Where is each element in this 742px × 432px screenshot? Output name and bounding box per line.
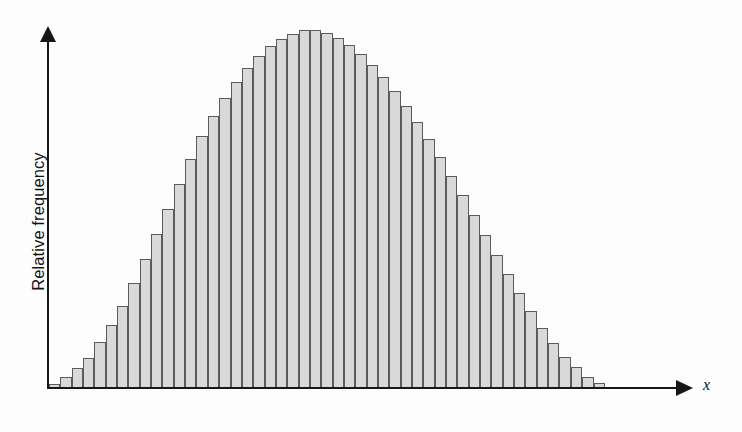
plot-area [49,30,605,388]
histogram-bar [185,159,196,388]
histogram-bars [49,30,605,388]
histogram-bar [389,91,400,388]
histogram-bar [491,255,502,388]
histogram-bar [469,215,480,388]
histogram-bar [140,259,151,388]
histogram-bar [367,65,378,388]
histogram-bar [446,176,457,388]
histogram-bar [287,34,298,388]
histogram-bar [321,33,332,388]
histogram-bar [412,122,423,388]
histogram-bar [151,234,162,388]
histogram-bar [571,367,582,388]
histogram-bar [548,343,559,388]
histogram-bar [106,325,117,388]
histogram-bar [299,30,310,388]
histogram-bar [94,342,105,388]
histogram-bar [537,328,548,388]
histogram-bar [117,306,128,388]
histogram-bar [265,46,276,388]
histogram-bar [333,38,344,388]
histogram-bar [525,311,536,388]
relative-frequency-histogram-figure: Relative frequency x [0,0,742,432]
histogram-bar [162,209,173,388]
histogram-bar [503,274,514,388]
histogram-bar [174,184,185,388]
histogram-bar [401,106,412,388]
x-axis-label: x [703,376,710,394]
histogram-bar [242,68,253,388]
histogram-bar [378,77,389,388]
histogram-bar [231,82,242,388]
y-axis-label: Relative frequency [29,112,48,332]
histogram-bar [514,293,525,388]
histogram-bar [435,157,446,388]
histogram-bar [276,39,287,388]
histogram-bar [310,30,321,388]
histogram-bar [253,56,264,388]
histogram-bar [355,54,366,388]
histogram-bar [196,136,207,388]
histogram-bar [83,358,94,388]
histogram-bar [480,235,491,388]
histogram-bar [208,116,219,388]
x-axis-arrow-icon [676,380,693,396]
histogram-bar [344,45,355,388]
histogram-bar [219,98,230,388]
histogram-bar [559,357,570,389]
histogram-bar [457,195,468,388]
x-axis-line [48,387,678,389]
histogram-bar [72,368,83,388]
histogram-bar [423,139,434,388]
histogram-bar [128,283,139,388]
